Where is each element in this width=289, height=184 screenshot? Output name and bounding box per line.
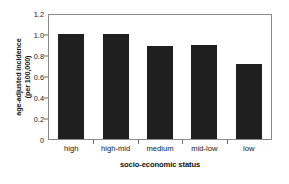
y-axis-tick-label: 0 [40,136,44,145]
x-axis-tick-mark [93,140,94,144]
x-axis-tick-label: high [64,144,78,153]
y-axis-tick-mark [44,98,48,99]
bar-slot [49,15,93,139]
x-axis-tick-mark [138,140,139,144]
x-axis-tick-label: medium [146,144,173,153]
x-axis-tick-label: low [243,144,254,153]
bar [191,45,217,139]
x-axis-tick-mark [227,140,228,144]
bars-layer [49,15,271,139]
bar [103,34,129,139]
x-axis-tick-labels: highhigh-midmediummid-lowlow [49,144,271,156]
y-axis-tick-label: 1.2 [34,10,44,19]
x-axis-tick-label: high-mid [101,144,130,153]
y-axis-tick-label: 0.4 [34,94,44,103]
bar [236,64,262,139]
bar-chart: age-adjusted incidence (per 100,000) 00.… [0,0,289,184]
bar [58,34,84,139]
x-axis-title: socio-economic status [48,160,272,169]
y-axis-tick-mark [44,56,48,57]
bar-slot [138,15,182,139]
y-axis-tick-mark [44,119,48,120]
x-axis-tick-label: mid-low [191,144,217,153]
y-axis-tick-label: 0.6 [34,73,44,82]
y-axis-tick-label: 1.0 [34,31,44,40]
y-axis-tick-mark [44,77,48,78]
y-axis-title-line-1: age-adjusted incidence [14,38,23,115]
bar-slot [93,15,137,139]
bar-slot [182,15,226,139]
y-axis-tick-label: 0.8 [34,52,44,61]
x-axis-tick-mark [182,140,183,144]
y-axis-tick-mark [44,35,48,36]
bar-slot [227,15,271,139]
bar [147,46,173,139]
y-axis-tick-label: 0.2 [34,115,44,124]
y-axis-tick-labels: 00.20.40.60.81.01.2 [26,14,44,140]
